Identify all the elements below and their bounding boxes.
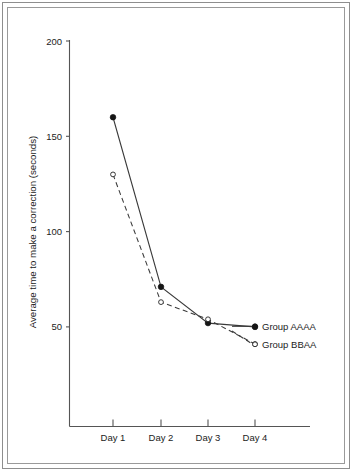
legend-marker-open-circle [253, 342, 258, 347]
data-point-group-bbaa-day-1 [111, 172, 116, 177]
legend-marker-filled-circle [253, 324, 258, 329]
y-tick-label-100: 100 [46, 226, 62, 237]
data-point-group-bbaa-day-3 [206, 317, 211, 322]
y-tick-label-200: 200 [46, 36, 62, 47]
chart-page: 200 150 100 50 Average time to make a co… [0, 0, 354, 473]
data-point-group-aaaa-day-2 [158, 284, 164, 290]
line-chart: 200 150 100 50 Average time to make a co… [0, 0, 354, 473]
x-label-day-4: Day 4 [243, 432, 268, 443]
x-label-day-3: Day 3 [196, 432, 221, 443]
y-axis-title: Average time to make a correction (secon… [27, 136, 38, 329]
legend-label-group-bbaa: Group BBAA [262, 339, 317, 350]
y-tick-label-50: 50 [51, 321, 62, 332]
legend: Group AAAA Group BBAA [232, 321, 317, 350]
legend-label-group-aaaa: Group AAAA [262, 321, 317, 332]
series-line-group-bbaa [113, 174, 255, 344]
data-point-group-bbaa-day-2 [159, 300, 164, 305]
x-label-day-2: Day 2 [149, 432, 174, 443]
series-line-group-aaaa [113, 117, 255, 327]
legend-line-group-bbaa [232, 331, 252, 344]
x-label-day-1: Day 1 [101, 432, 126, 443]
y-tick-label-150: 150 [46, 131, 62, 142]
data-point-group-aaaa-day-1 [110, 114, 116, 120]
series-layer [110, 114, 258, 346]
